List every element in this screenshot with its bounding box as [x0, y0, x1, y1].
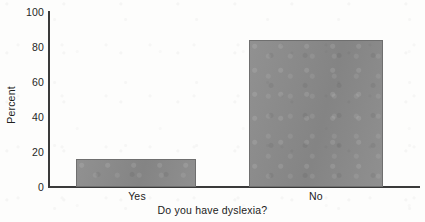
x-tick-label-yes: Yes	[128, 190, 146, 202]
bar-chart-figure: Percent 100 80 60 40 20 0 Yes No Do you …	[0, 0, 425, 222]
y-axis-tick-labels: 100 80 60 40 20 0	[0, 0, 44, 222]
bar-no	[249, 40, 383, 187]
y-tick-label: 100	[2, 6, 44, 18]
y-tick-label: 0	[2, 181, 44, 193]
bar-yes	[76, 159, 196, 187]
y-axis-line	[48, 11, 50, 188]
y-tick-label: 20	[2, 146, 44, 158]
y-tick-label: 80	[2, 41, 44, 53]
y-tick-label: 60	[2, 76, 44, 88]
plot-area: Percent 100 80 60 40 20 0 Yes No Do you …	[0, 0, 425, 222]
x-axis-title: Do you have dyslexia?	[0, 204, 425, 216]
x-tick-label-no: No	[309, 190, 323, 202]
y-tick-label: 40	[2, 111, 44, 123]
